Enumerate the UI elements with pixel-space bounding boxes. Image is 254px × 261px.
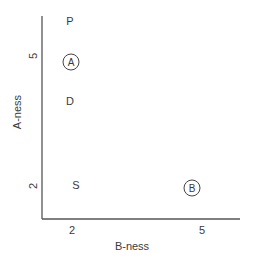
point-p-label: P: [66, 15, 73, 27]
x-tick-low: 2: [69, 224, 75, 236]
point-a-label: A: [68, 57, 75, 68]
y-tick-high: 5: [27, 53, 39, 59]
y-axis-label: A-ness: [11, 94, 23, 129]
point-d-label: D: [66, 95, 74, 107]
y-tick-low: 2: [27, 183, 39, 189]
point-b-label: B: [189, 183, 196, 194]
chart: 5 2 A-ness 2 5 B-ness P A D S B: [0, 0, 254, 261]
point-s-label: S: [72, 179, 79, 191]
x-tick-high: 5: [199, 224, 205, 236]
x-axis-label: B-ness: [115, 240, 150, 252]
